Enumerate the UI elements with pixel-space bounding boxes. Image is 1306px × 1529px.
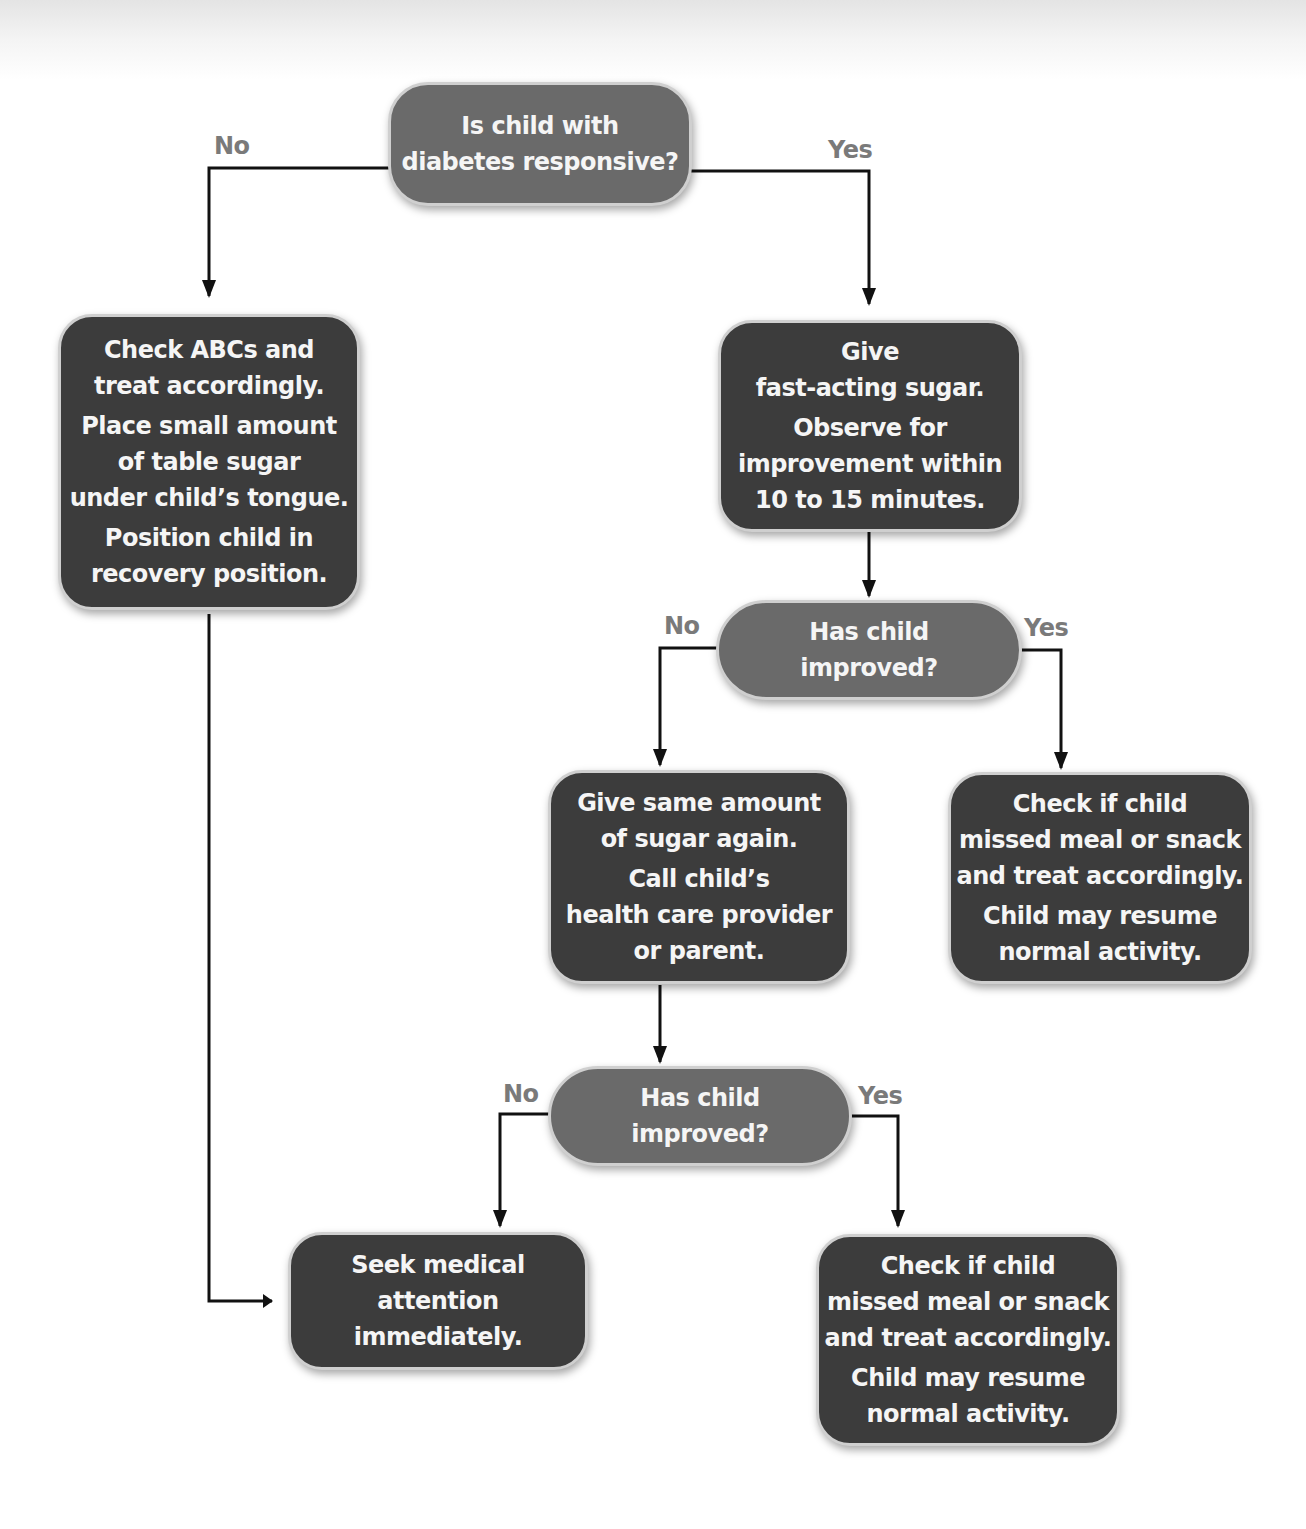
text-line: recovery position. — [91, 556, 327, 592]
decision-improved-first: Has child improved? — [716, 600, 1022, 700]
text-line: normal activity. — [983, 934, 1217, 970]
text-line: diabetes responsive? — [402, 144, 679, 180]
step-recovery-position: Position child in recovery position. — [91, 520, 327, 592]
step-place-sugar: Place small amount of table sugar under … — [70, 408, 349, 516]
edge-label-q3-yes: Yes — [858, 1082, 902, 1110]
connector-q1-yes — [688, 171, 869, 304]
decision-text: Has child improved? — [800, 614, 937, 686]
step-give-again: Give same amount of sugar again. — [577, 785, 821, 857]
decision-text: Has child improved? — [631, 1080, 768, 1152]
text-line: Child may resume — [983, 898, 1217, 934]
text-line: improved? — [800, 650, 937, 686]
text-line: Position child in — [91, 520, 327, 556]
connector-q2-no — [660, 648, 718, 765]
action-give-sugar-again: Give same amount of sugar again. Call ch… — [548, 770, 850, 984]
step-give-sugar: Give fast-acting sugar. — [756, 334, 984, 406]
text-line: improvement within — [738, 446, 1002, 482]
text-line: Seek medical — [351, 1247, 525, 1283]
step-resume-activity: Child may resume normal activity. — [983, 898, 1217, 970]
step-call-provider: Call child’s health care provider or par… — [566, 861, 832, 969]
text-line: of table sugar — [70, 444, 349, 480]
action-seek-medical-attention: Seek medical attention immediately. — [288, 1232, 588, 1370]
edge-label-q2-yes: Yes — [1024, 614, 1068, 642]
text-line: missed meal or snack — [825, 1284, 1112, 1320]
text-line: missed meal or snack — [957, 822, 1244, 858]
text-line: health care provider — [566, 897, 832, 933]
connector-q3-no — [500, 1114, 552, 1226]
text-line: attention — [351, 1283, 525, 1319]
edge-label-q1-yes: Yes — [828, 136, 872, 164]
text-line: Place small amount — [70, 408, 349, 444]
text-line: Observe for — [738, 410, 1002, 446]
action-give-fast-sugar: Give fast-acting sugar. Observe for impr… — [718, 320, 1022, 532]
decision-child-responsive: Is child with diabetes responsive? — [388, 82, 692, 206]
connector-q3-yes — [848, 1116, 898, 1226]
text-line: Check if child — [825, 1248, 1112, 1284]
step-check-meal: Check if child missed meal or snack and … — [957, 786, 1244, 894]
text-line: Has child — [631, 1080, 768, 1116]
text-line: or parent. — [566, 933, 832, 969]
text-line: normal activity. — [851, 1396, 1085, 1432]
text-line: immediately. — [351, 1319, 525, 1355]
action-check-abcs: Check ABCs and treat accordingly. Place … — [58, 314, 360, 610]
text-line: treat accordingly. — [94, 368, 324, 404]
edge-label-q3-no: No — [503, 1080, 539, 1108]
text-line: under child’s tongue. — [70, 480, 349, 516]
text-line: Check if child — [957, 786, 1244, 822]
text-line: 10 to 15 minutes. — [738, 482, 1002, 518]
text-line: Child may resume — [851, 1360, 1085, 1396]
text-line: Call child’s — [566, 861, 832, 897]
connector-no1-no3 — [209, 614, 272, 1301]
decision-text: Is child with diabetes responsive? — [402, 108, 679, 180]
text-line: Give same amount — [577, 785, 821, 821]
connector-q1-no — [209, 168, 392, 296]
text-line: Check ABCs and — [94, 332, 324, 368]
step-seek-medical: Seek medical attention immediately. — [351, 1247, 525, 1355]
step-check-abcs: Check ABCs and treat accordingly. — [94, 332, 324, 404]
action-check-missed-meal-second: Check if child missed meal or snack and … — [816, 1234, 1120, 1446]
connector-q2-yes — [1020, 650, 1061, 768]
text-line: and treat accordingly. — [825, 1320, 1112, 1356]
decision-improved-second: Has child improved? — [548, 1066, 852, 1166]
text-line: improved? — [631, 1116, 768, 1152]
step-check-meal: Check if child missed meal or snack and … — [825, 1248, 1112, 1356]
text-line: Give — [756, 334, 984, 370]
text-line: and treat accordingly. — [957, 858, 1244, 894]
text-line: fast-acting sugar. — [756, 370, 984, 406]
step-observe: Observe for improvement within 10 to 15 … — [738, 410, 1002, 518]
text-line: Is child with — [402, 108, 679, 144]
edge-label-q1-no: No — [214, 132, 250, 160]
edge-label-q2-no: No — [664, 612, 700, 640]
action-check-missed-meal-first: Check if child missed meal or snack and … — [948, 772, 1252, 984]
text-line: Has child — [800, 614, 937, 650]
text-line: of sugar again. — [577, 821, 821, 857]
step-resume-activity: Child may resume normal activity. — [851, 1360, 1085, 1432]
